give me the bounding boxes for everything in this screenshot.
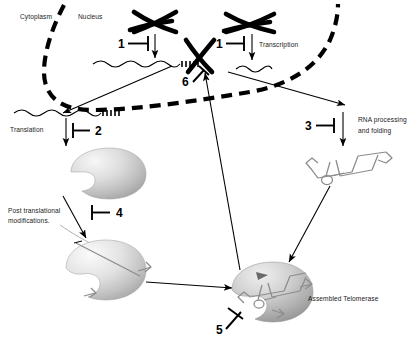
mrna-left xyxy=(93,61,198,67)
chromosome-left xyxy=(130,12,176,32)
telomerase-pathway-diagram: Cytoplasm Nucleus 1 xyxy=(0,0,413,338)
inhibitor-2: 2 xyxy=(73,123,102,138)
label-transcription: Transcription xyxy=(259,41,298,49)
telomerase-complex xyxy=(232,262,313,322)
inhibitor-3: 3 xyxy=(305,118,334,133)
label-assembled-telomerase: Assembled Telomerase xyxy=(308,295,379,302)
label-nucleus: Nucleus xyxy=(78,13,103,20)
arrow-export-ncrna xyxy=(228,72,345,105)
rna-cloverleaf xyxy=(306,152,392,185)
inhibitor-3-number: 3 xyxy=(305,119,312,133)
inhibitor-1-right: 1 xyxy=(216,36,244,51)
inhibitor-6: 6 xyxy=(182,66,209,89)
inhibitor-5: 5 xyxy=(216,308,243,337)
arrow-telomerase-to-telomere xyxy=(205,73,240,270)
inhibitor-1-left-number: 1 xyxy=(118,37,125,51)
inhibitor-2-number: 2 xyxy=(95,124,102,138)
inhibitor-1-left: 1 xyxy=(118,36,148,51)
inhibitor-6-number: 6 xyxy=(182,75,189,89)
label-cytoplasm: Cytoplasm xyxy=(20,13,52,21)
leader-post-translational xyxy=(60,225,90,243)
protein-nascent xyxy=(71,148,146,199)
chromosome-right xyxy=(224,14,274,32)
figure-canvas: Cytoplasm Nucleus 1 xyxy=(0,0,413,338)
label-rna-processing-1: RNA processing xyxy=(358,116,407,124)
arrow-rna-to-complex xyxy=(289,186,330,262)
arrow-protein-to-complex xyxy=(146,282,232,288)
arrow-post-translational xyxy=(63,196,86,238)
ncrna-right xyxy=(236,66,272,72)
inhibitor-5-number: 5 xyxy=(216,323,223,337)
label-post-translational-2: modifications. xyxy=(8,217,50,224)
protein-modified xyxy=(66,240,151,300)
label-rna-processing-2: and folding xyxy=(358,127,392,135)
inhibitor-4: 4 xyxy=(92,205,123,220)
label-post-translational-1: Post translational xyxy=(8,207,61,214)
inhibitor-1-right-number: 1 xyxy=(216,37,223,51)
inhibitor-4-number: 4 xyxy=(116,206,123,220)
label-translation: Translation xyxy=(10,126,44,133)
